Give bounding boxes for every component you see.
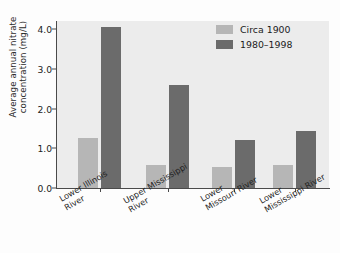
y-tick-label-2: 2.0 <box>28 103 52 114</box>
legend-swatch-early-icon <box>216 25 233 34</box>
y-axis-line <box>56 21 57 189</box>
y-axis-ticks: 0.0 1.0 2.0 3.0 4.0 <box>26 0 52 253</box>
legend-entry-early: Circa 1900 <box>216 22 328 37</box>
legend-swatch-late-icon <box>216 40 233 49</box>
y-tick-label-4: 4.0 <box>28 24 52 35</box>
y-tick-label-3: 3.0 <box>28 63 52 74</box>
y-tick-label-1: 1.0 <box>28 143 52 154</box>
chart-figure: Average annual nitrate concentration (mg… <box>0 0 340 253</box>
y-tick-label-0: 0.0 <box>28 183 52 194</box>
legend-label-early: Circa 1900 <box>240 24 291 35</box>
legend: Circa 1900 1980–1998 <box>216 22 328 52</box>
legend-label-late: 1980–1998 <box>240 39 292 50</box>
legend-entry-late: 1980–1998 <box>216 37 328 52</box>
